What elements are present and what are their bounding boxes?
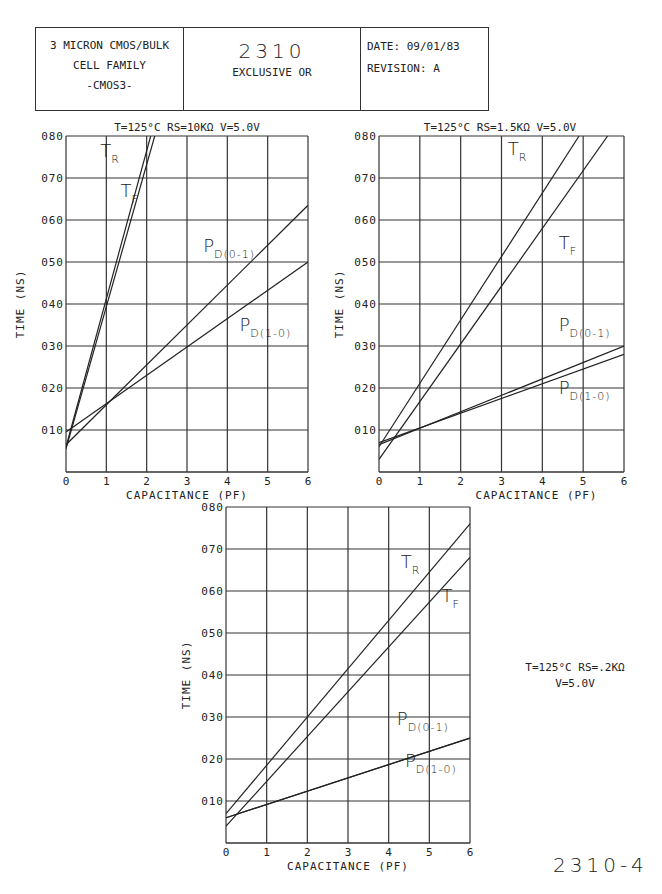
plot-3: 0123456010020030040050060070080CAPACITAN… — [180, 501, 473, 873]
series-tr — [379, 136, 579, 447]
y-tick-label: 030 — [41, 340, 64, 353]
series-tr — [66, 136, 151, 447]
curve-label: PD(1-0) — [239, 314, 291, 340]
curve-label: TR — [100, 140, 120, 166]
y-tick-label: 060 — [354, 214, 377, 227]
y-axis-label: TIME (NS) — [333, 270, 346, 339]
plot-1: 0123456010020030040050060070080CAPACITAN… — [14, 121, 311, 502]
series-tf — [66, 136, 155, 449]
y-tick-label: 010 — [201, 795, 224, 808]
y-tick-label: 070 — [41, 172, 64, 185]
plot-title: T=125°C RS=10KΩ V=5.0V — [114, 121, 260, 134]
curve-label: TR — [401, 551, 421, 577]
x-tick-label: 2 — [304, 846, 311, 859]
x-tick-label: 6 — [621, 475, 628, 488]
y-tick-label: 010 — [354, 424, 377, 437]
y-tick-label: 060 — [41, 214, 64, 227]
x-tick-label: 4 — [539, 475, 546, 488]
y-tick-label: 030 — [201, 711, 224, 724]
x-tick-label: 0 — [223, 846, 230, 859]
y-axis-label: TIME (NS) — [180, 641, 193, 710]
y-tick-label: 040 — [41, 298, 64, 311]
curve-label: PD(0-1) — [397, 708, 449, 734]
plots-canvas: 0123456010020030040050060070080CAPACITAN… — [0, 0, 662, 894]
x-tick-label: 0 — [376, 475, 383, 488]
curve-label: PD(0-1) — [559, 314, 611, 340]
y-tick-label: 050 — [354, 256, 377, 269]
y-tick-label: 050 — [201, 627, 224, 640]
curve-label: PD(1-0) — [559, 377, 611, 403]
x-tick-label: 6 — [305, 475, 312, 488]
x-tick-label: 3 — [345, 846, 352, 859]
x-tick-label: 2 — [457, 475, 464, 488]
curve-label: TF — [442, 585, 460, 611]
y-tick-label: 060 — [201, 585, 224, 598]
y-tick-label: 080 — [354, 130, 377, 143]
figure-number: 2310-4 — [553, 853, 648, 877]
x-axis-label: CAPACITANCE (PF) — [126, 489, 248, 502]
x-tick-label: 6 — [467, 846, 474, 859]
x-tick-label: 5 — [264, 475, 271, 488]
y-tick-label: 040 — [354, 298, 377, 311]
x-tick-label: 1 — [417, 475, 424, 488]
curve-label: PD(1-0) — [405, 750, 457, 776]
x-tick-label: 4 — [224, 475, 231, 488]
curve-label: TF — [559, 232, 577, 258]
series-tf — [379, 136, 608, 459]
x-tick-label: 3 — [184, 475, 191, 488]
curve-label: TR — [508, 138, 528, 164]
x-tick-label: 5 — [580, 475, 587, 488]
plot-2: 0123456010020030040050060070080CAPACITAN… — [333, 121, 627, 502]
y-tick-label: 050 — [41, 256, 64, 269]
plot3-conditions: T=125°C RS=.2KΩ V=5.0V — [500, 660, 650, 692]
x-tick-label: 1 — [263, 846, 270, 859]
curve-label: PD(0-1) — [203, 235, 255, 261]
y-tick-label: 080 — [41, 130, 64, 143]
x-tick-label: 3 — [498, 475, 505, 488]
x-tick-label: 2 — [143, 475, 150, 488]
plot-title: T=125°C RS=1.5KΩ V=5.0V — [424, 121, 577, 134]
x-axis-label: CAPACITANCE (PF) — [287, 860, 409, 873]
y-axis-label: TIME (NS) — [14, 270, 27, 339]
y-tick-label: 070 — [354, 172, 377, 185]
y-tick-label: 070 — [201, 543, 224, 556]
y-tick-label: 040 — [201, 669, 224, 682]
x-tick-label: 1 — [103, 475, 110, 488]
y-tick-label: 020 — [41, 382, 64, 395]
plot3-conditions-line2: V=5.0V — [500, 676, 650, 692]
y-tick-label: 080 — [201, 501, 224, 514]
x-tick-label: 4 — [385, 846, 392, 859]
y-tick-label: 020 — [354, 382, 377, 395]
y-tick-label: 030 — [354, 340, 377, 353]
y-tick-label: 010 — [41, 424, 64, 437]
plot3-conditions-line1: T=125°C RS=.2KΩ — [500, 660, 650, 676]
y-tick-label: 020 — [201, 753, 224, 766]
x-tick-label: 0 — [63, 475, 70, 488]
curve-label: TF — [120, 180, 138, 206]
x-axis-label: CAPACITANCE (PF) — [476, 489, 598, 502]
x-tick-label: 5 — [426, 846, 433, 859]
